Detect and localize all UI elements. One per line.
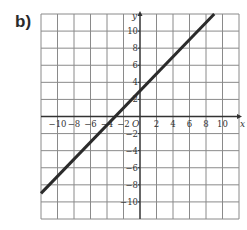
y-tick-label: −4 <box>125 146 138 156</box>
y-axis-label: y <box>131 11 138 21</box>
x-tick-label: −6 <box>84 119 97 129</box>
y-tick-label: 4 <box>133 77 138 87</box>
coordinate-grid-chart: −10−8−6−4−2246810108642−2−4−6−8−10Oxy <box>0 0 247 230</box>
tick-labels: −10−8−6−4−2246810108642−2−4−6−8−10Oxy <box>49 11 246 207</box>
origin-label: O <box>132 119 140 129</box>
y-tick-label: 6 <box>133 60 138 70</box>
y-tick-label: 10 <box>127 26 138 36</box>
x-tick-label: −10 <box>49 119 67 129</box>
x-tick-label: 10 <box>217 119 228 129</box>
x-tick-label: 2 <box>154 119 159 129</box>
y-tick-label: −8 <box>125 180 138 190</box>
x-tick-label: −8 <box>68 119 81 129</box>
x-tick-label: 6 <box>187 119 192 129</box>
y-tick-label: −6 <box>125 163 138 173</box>
x-tick-label: 8 <box>203 119 208 129</box>
y-tick-label: −2 <box>125 129 138 139</box>
x-tick-label: 4 <box>170 119 175 129</box>
axes <box>41 11 242 219</box>
x-axis-label: x <box>240 119 245 129</box>
y-tick-label: −10 <box>120 197 138 207</box>
x-tick-label: −2 <box>117 119 130 129</box>
y-tick-label: 8 <box>133 43 138 53</box>
